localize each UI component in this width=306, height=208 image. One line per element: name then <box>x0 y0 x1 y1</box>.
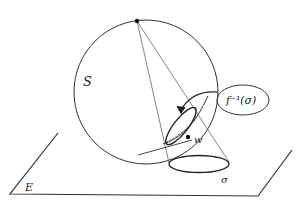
label-w: w <box>194 134 203 145</box>
label-E: E <box>24 181 33 194</box>
point-w <box>186 135 190 139</box>
label-sigma: σ <box>221 174 229 185</box>
callout-arrow <box>177 92 218 113</box>
label-preimage: f⁻¹(σ) <box>225 94 256 107</box>
label-S: S <box>83 74 92 89</box>
plane-E <box>10 133 292 196</box>
stereographic-diagram: w σ f⁻¹(σ) S E <box>0 0 306 208</box>
region-sigma <box>169 156 229 173</box>
north-pole-point <box>135 19 139 23</box>
